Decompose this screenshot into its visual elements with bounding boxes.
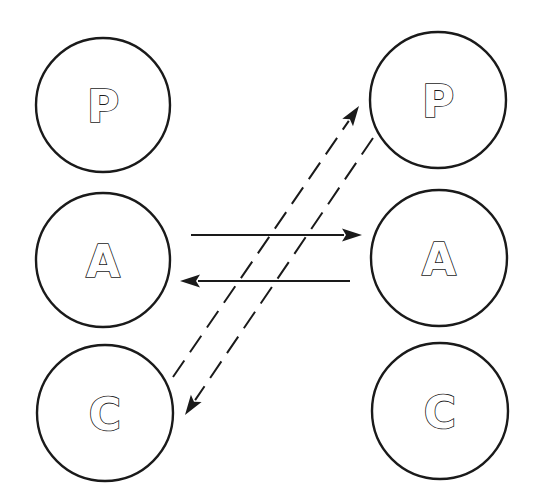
- parent-to-child-arrow: [185, 138, 373, 415]
- right-parent-label: P: [422, 76, 454, 127]
- child-to-parent-line: [173, 121, 349, 377]
- left-adult-label: A: [86, 236, 120, 287]
- arrowhead-icon: [342, 106, 359, 126]
- right-parent-node: P: [370, 32, 506, 168]
- right-person-ego-states: PAC: [370, 32, 508, 479]
- ego-state-diagram: PAC PAC: [0, 0, 539, 500]
- adult-to-adult-arrow: [191, 229, 362, 242]
- adult-to-adult-return-arrow: [180, 275, 350, 288]
- transaction-arrows: [173, 106, 373, 415]
- left-child-label: C: [89, 389, 121, 440]
- arrowhead-icon: [185, 395, 202, 415]
- left-adult-node: A: [36, 193, 170, 327]
- child-to-parent-arrow: [173, 106, 359, 377]
- left-person-ego-states: PAC: [36, 38, 173, 481]
- right-child-label: C: [424, 387, 456, 438]
- right-adult-node: A: [371, 190, 507, 326]
- arrowhead-icon: [180, 275, 200, 288]
- parent-to-child-line: [195, 138, 373, 400]
- left-child-node: C: [37, 345, 173, 481]
- left-parent-node: P: [36, 38, 170, 172]
- left-parent-label: P: [87, 81, 119, 132]
- arrowhead-icon: [342, 229, 362, 242]
- right-adult-label: A: [422, 234, 456, 285]
- right-child-node: C: [372, 343, 508, 479]
